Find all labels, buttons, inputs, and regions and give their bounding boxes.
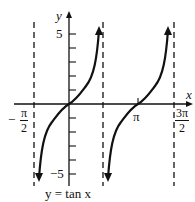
- tan-chart-plot: [0, 0, 195, 202]
- x-tick-label-pi: π: [133, 110, 140, 123]
- y-axis-label: y: [56, 9, 62, 22]
- y-tick-label-neg-5: −5: [50, 167, 64, 180]
- three-half-pi-denominator: 2: [175, 121, 189, 134]
- branch-1-bottom-arrow-icon: [35, 173, 43, 182]
- y-axis-arrow-icon: [66, 11, 72, 18]
- branch-2-top-arrow-icon: [164, 26, 172, 35]
- x-tick-neg-sign: −: [8, 113, 15, 126]
- x-tick-label-three-half-pi: 3π 2: [175, 107, 189, 134]
- neg-half-pi-denominator: 2: [20, 121, 28, 134]
- y-tick-label-5: 5: [56, 27, 63, 40]
- chart-caption: y = tan x: [45, 187, 91, 200]
- branch-1-top-arrow-icon: [95, 26, 103, 35]
- x-tick-label-neg-half-pi: π 2: [20, 107, 28, 134]
- x-axis-label: x: [186, 88, 192, 101]
- branch-2-bottom-arrow-icon: [104, 173, 112, 182]
- neg-half-pi-numerator: π: [20, 107, 28, 121]
- three-half-pi-numerator: 3π: [175, 107, 189, 121]
